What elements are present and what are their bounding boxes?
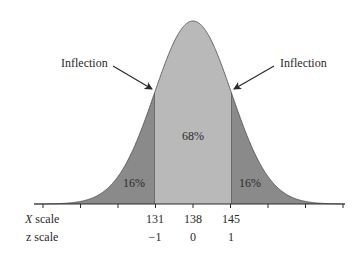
curve-regions <box>34 21 345 204</box>
x-scale-label: X scale <box>24 212 59 226</box>
pct-left-label: 16% <box>123 176 145 190</box>
pct-center-label: 68% <box>182 129 204 143</box>
inflection-left-label: Inflection <box>61 56 108 70</box>
z-tick-label-minus1: −1 <box>149 230 162 244</box>
inflection-right-arrow <box>234 66 274 89</box>
inflection-left-arrow <box>113 66 152 89</box>
z-scale-label: z scale <box>26 230 58 244</box>
x-axis <box>34 204 345 208</box>
normal-distribution-chart: 68% 16% 16% Inflection Inflection X scal… <box>0 0 362 260</box>
inflection-right-label: Inflection <box>280 56 327 70</box>
x-tick-label-145: 145 <box>222 212 240 226</box>
z-tick-label-1: 1 <box>228 230 234 244</box>
x-scale-row: X scale 131 138 145 <box>24 212 240 226</box>
z-scale-row: z scale −1 0 1 <box>26 230 234 244</box>
pct-right-label: 16% <box>239 176 261 190</box>
x-axis-ticks <box>43 204 343 208</box>
x-tick-label-131: 131 <box>146 212 164 226</box>
center-region <box>155 21 232 204</box>
x-tick-label-138: 138 <box>184 212 202 226</box>
z-tick-label-0: 0 <box>190 230 196 244</box>
